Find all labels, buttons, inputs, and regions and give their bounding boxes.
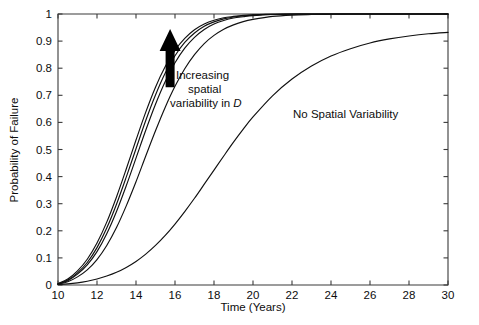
x-tick-label: 18 bbox=[208, 289, 221, 301]
y-tick-label: 0.9 bbox=[36, 35, 52, 47]
y-tick-label: 0.4 bbox=[36, 171, 53, 183]
annotation-variability-symbol: D bbox=[233, 97, 241, 109]
annotation-increasing-line1: Increasing bbox=[176, 69, 229, 81]
y-tick-label: 1 bbox=[46, 8, 52, 20]
x-tick-label: 10 bbox=[52, 289, 65, 301]
y-axis-title: Probability of Failure bbox=[8, 98, 20, 203]
y-tick-label: 0.1 bbox=[36, 252, 52, 264]
y-tick-label: 0.8 bbox=[36, 62, 52, 74]
x-tick-label: 30 bbox=[442, 289, 455, 301]
y-tick-label: 0.7 bbox=[36, 89, 52, 101]
x-tick-label: 24 bbox=[325, 289, 338, 301]
figure-container: 1012141618202224262830 00.10.20.30.40.50… bbox=[0, 0, 479, 325]
x-tick-label: 26 bbox=[364, 289, 377, 301]
annotation-no-spatial-variability: No Spatial Variability bbox=[293, 108, 399, 120]
x-tick-label: 22 bbox=[286, 289, 299, 301]
y-tick-label: 0.3 bbox=[36, 198, 52, 210]
x-axis-title: Time (Years) bbox=[221, 301, 286, 313]
x-tick-label: 16 bbox=[169, 289, 182, 301]
x-tick-label: 14 bbox=[130, 289, 143, 301]
y-tick-label: 0.5 bbox=[36, 144, 52, 156]
annotation-variability-prefix: variability in bbox=[170, 97, 233, 109]
y-tick-label: 0.2 bbox=[36, 225, 52, 237]
x-tick-label: 28 bbox=[403, 289, 416, 301]
annotation-increasing-line2: spatial bbox=[188, 83, 221, 95]
y-tick-label: 0.6 bbox=[36, 116, 52, 128]
x-tick-label: 12 bbox=[91, 289, 104, 301]
y-tick-label: 0 bbox=[46, 279, 52, 291]
annotation-increasing-line3: variability in D bbox=[170, 97, 242, 109]
probability-of-failure-chart: 1012141618202224262830 00.10.20.30.40.50… bbox=[0, 0, 479, 325]
x-tick-label: 20 bbox=[247, 289, 260, 301]
